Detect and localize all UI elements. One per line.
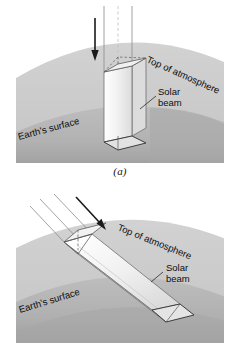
label-solar-beam-line2-b: beam [166,273,190,284]
panel-a: Top of atmosphere Solar beam Earth's sur… [0,0,240,182]
solar-beam-angle-figure: Top of atmosphere Solar beam Earth's sur… [0,0,240,364]
label-solar-beam-line1-b: Solar [166,262,188,273]
label-solar-beam-line2-a: beam [158,97,182,108]
panel-b: Top of atmosphere Solar beam Earth's sur… [0,182,240,364]
panel-a-diagram: Top of atmosphere Solar beam Earth's sur… [0,0,240,165]
panel-b-diagram: Top of atmosphere Solar beam Earth's sur… [0,182,240,345]
panel-caption-a: (a) [0,165,240,177]
label-solar-beam-line1-a: Solar [158,86,180,97]
